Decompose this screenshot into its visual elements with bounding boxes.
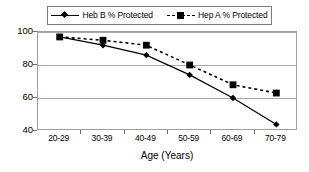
plot-area (37, 31, 297, 130)
x-tick-mark (124, 130, 125, 134)
legend-key-dashed-square-icon (167, 11, 195, 20)
legend-key-solid-diamond-icon (51, 11, 79, 20)
y-tick-mark (33, 97, 37, 98)
y-tick-label: 60 (3, 92, 33, 102)
data-point-marker (186, 72, 192, 78)
x-axis-title: Age (Years) (37, 151, 297, 161)
x-tick-label: 20-29 (37, 134, 80, 147)
y-tick-label: 80 (3, 59, 33, 69)
data-point-marker (230, 95, 236, 101)
data-point-marker (100, 37, 107, 44)
data-point-marker (273, 121, 279, 127)
data-point-marker (186, 62, 193, 69)
legend-entry-hep-b: Heb B % Protected (51, 11, 153, 20)
legend-entry-hep-a: Hep A % Protected (167, 11, 268, 20)
x-tick-mark (254, 130, 255, 134)
data-point-marker (143, 42, 150, 49)
chart-container: Heb B % Protected Hep A % Protected 1008… (0, 0, 309, 172)
x-tick-label: 50-59 (167, 134, 210, 147)
x-tick-label: 60-69 (210, 134, 253, 147)
legend-label-hep-b: Heb B % Protected (82, 11, 153, 20)
x-tick-mark (80, 130, 81, 134)
x-tick-mark (210, 130, 211, 134)
data-point-marker (56, 34, 63, 41)
y-tick-mark (33, 31, 37, 32)
y-axis: 100806040 (0, 0, 33, 172)
x-tick-label: 30-39 (80, 134, 123, 147)
y-tick-mark (33, 130, 37, 131)
y-tick-label: 100 (3, 26, 33, 36)
chart-legend: Heb B % Protected Hep A % Protected (47, 6, 272, 25)
x-axis: 20-2930-3940-4950-5960-6970-79 (37, 134, 297, 147)
data-point-marker (230, 81, 237, 88)
data-point-marker (143, 52, 149, 58)
x-tick-mark (167, 130, 168, 134)
x-tick-label: 40-49 (124, 134, 167, 147)
plot-svg (38, 32, 298, 131)
legend-label-hep-a: Hep A % Protected (198, 11, 268, 20)
y-tick-label: 40 (3, 125, 33, 135)
data-point-marker (273, 90, 280, 97)
y-tick-mark (33, 64, 37, 65)
series-line-hep-b (60, 37, 277, 124)
x-tick-label: 70-79 (254, 134, 297, 147)
